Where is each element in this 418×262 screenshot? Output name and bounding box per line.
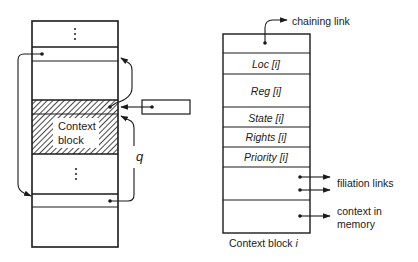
memory-stack: Context block q — [18, 21, 190, 247]
field-priority: Priority [i] — [244, 151, 289, 163]
context-block-label-line1: Context — [58, 120, 96, 132]
context-in-memory-label-line2: memory — [337, 218, 376, 230]
context-block-diagram: Context block q Loc [i] Reg [i] State [i… — [0, 0, 418, 262]
caption-index: i — [296, 237, 299, 249]
field-loc: Loc [i] — [252, 58, 281, 70]
field-state: State [i] — [248, 112, 285, 124]
context-block-structure: Loc [i] Reg [i] State [i] Rights [i] Pri… — [223, 15, 394, 249]
context-in-memory-label-line1: context in — [337, 205, 382, 217]
chaining-link-label: chaining link — [292, 15, 351, 27]
chaining-link-arrow — [265, 20, 287, 43]
context-block-caption: Context block i — [229, 237, 299, 249]
field-rights: Rights [i] — [246, 131, 288, 143]
q-label: q — [136, 149, 144, 164]
filiation-links-label: filiation links — [337, 177, 394, 189]
context-block-label-line2: block — [58, 134, 84, 146]
ellipsis-top-icon — [74, 28, 76, 40]
ellipsis-bottom-icon — [75, 168, 77, 180]
field-reg: Reg [i] — [251, 85, 282, 97]
caption-prefix: Context block — [229, 237, 296, 249]
